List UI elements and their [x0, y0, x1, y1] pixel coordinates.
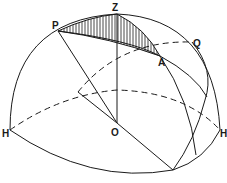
line-op — [58, 31, 117, 123]
label-a: A — [158, 57, 165, 68]
celestial-sphere-diagram: Z P A Q O H H — [0, 0, 227, 183]
label-p: P — [52, 20, 59, 31]
label-q: Q — [193, 38, 201, 49]
line-inner-o — [78, 92, 117, 123]
line-o-bottom — [117, 123, 173, 170]
label-h-left: H — [2, 128, 9, 139]
label-z: Z — [112, 2, 118, 13]
label-o: O — [111, 127, 119, 138]
label-h-right: H — [220, 128, 227, 139]
equator-back — [78, 42, 192, 92]
horizon-back — [10, 90, 220, 130]
